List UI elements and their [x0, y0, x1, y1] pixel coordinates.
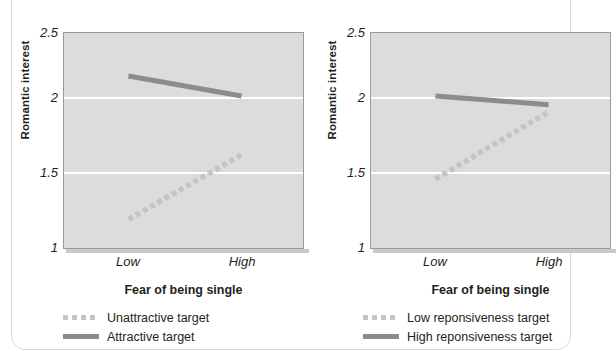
- x-tick-high-right: High: [519, 254, 579, 269]
- y-tick-1-left: 1: [28, 241, 58, 254]
- solid-line-swatch-icon: [63, 331, 99, 342]
- chart-panel-right: Romantic interest 2.5 2 1.5 1 Low High F…: [307, 0, 534, 356]
- plot-area-left: [63, 32, 304, 249]
- x-tick-low-left: Low: [98, 254, 158, 269]
- solid-line-swatch-icon: [363, 331, 399, 342]
- x-axis-baseline-right: [373, 249, 616, 253]
- legend-label: Unattractive target: [107, 311, 209, 325]
- y-axis-ticks-left: 2.5 2 1.5 1: [20, 0, 58, 356]
- y-tick-2-right: 2: [335, 91, 365, 104]
- legend-label: High reponsiveness target: [407, 330, 552, 344]
- series-lines-left: [64, 33, 303, 248]
- legend-item-unattractive-target: Unattractive target: [63, 308, 323, 327]
- y-tick-2-left: 2: [28, 91, 58, 104]
- chart-panel-left: Romantic interest 2.5 2 1.5 1 Low High F…: [0, 0, 310, 356]
- dashed-line-swatch-icon: [363, 312, 399, 323]
- x-axis-label-right: Fear of being single: [370, 283, 611, 297]
- series-line-low-responsiveness-target: [435, 112, 548, 179]
- y-tick-1-5-left: 1.5: [28, 166, 58, 179]
- legend-right: Low reponsiveness target High reponsiven…: [363, 308, 603, 346]
- x-tick-high-left: High: [212, 254, 272, 269]
- legend-left: Unattractive target Attractive target: [63, 308, 323, 346]
- dashed-line-swatch-icon: [63, 312, 99, 323]
- y-axis-ticks-right: 2.5 2 1.5 1: [327, 0, 365, 356]
- legend-item-attractive-target: Attractive target: [63, 327, 323, 346]
- x-axis-baseline-left: [66, 249, 309, 253]
- legend-item-high-responsiveness-target: High reponsiveness target: [363, 327, 603, 346]
- series-lines-right: [371, 33, 610, 248]
- y-tick-2-5-right: 2.5: [335, 26, 365, 39]
- y-tick-1-right: 1: [335, 241, 365, 254]
- legend-label: Low reponsiveness target: [407, 311, 549, 325]
- series-line-attractive-target: [128, 76, 241, 96]
- series-line-unattractive-target: [128, 155, 241, 220]
- plot-area-right: [370, 32, 611, 249]
- x-axis-label-left: Fear of being single: [63, 283, 304, 297]
- y-tick-1-5-right: 1.5: [335, 166, 365, 179]
- legend-label: Attractive target: [107, 330, 195, 344]
- y-tick-2-5-left: 2.5: [28, 26, 58, 39]
- x-tick-low-right: Low: [405, 254, 465, 269]
- series-line-high-responsiveness-target: [435, 96, 548, 105]
- legend-item-low-responsiveness-target: Low reponsiveness target: [363, 308, 603, 327]
